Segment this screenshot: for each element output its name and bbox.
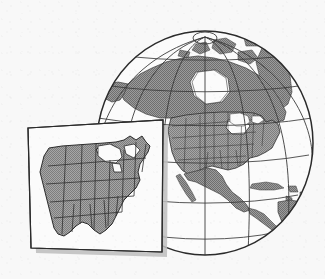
- inset-map-group: [28, 120, 168, 257]
- illustration-canvas: [0, 0, 325, 279]
- south-america-shape: [278, 200, 314, 258]
- figure-root: [0, 0, 325, 279]
